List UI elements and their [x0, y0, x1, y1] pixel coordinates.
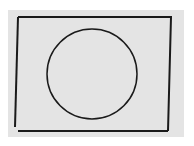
diagram-canvas — [0, 0, 194, 146]
